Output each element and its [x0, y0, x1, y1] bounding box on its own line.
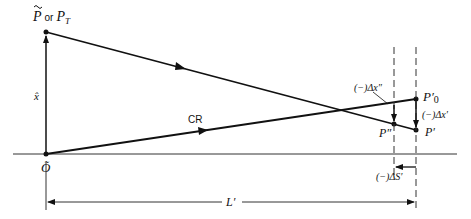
label-vertical-axis: x̂	[33, 90, 39, 102]
label-top-point: PorPT	[32, 9, 71, 26]
delta-x-double-prime-leader	[373, 92, 388, 104]
label-delta-s-prime: (−)ΔS′	[376, 171, 403, 183]
label-chief-ray: CR	[188, 114, 202, 125]
label-origin: Õ	[41, 160, 51, 175]
point-p	[44, 30, 49, 35]
label-delta-x-double-prime: (−)Δx″	[354, 82, 383, 94]
marginal-ray	[46, 32, 416, 130]
label-p-double-prime: P″	[378, 126, 392, 140]
label-p-prime: P′	[424, 125, 435, 139]
optics-diagram: PorPT x̂ Õ CR (−)Δx″ (−)Δx′ P′0 P″ P′ (−…	[0, 0, 471, 219]
point-origin	[44, 152, 49, 157]
chief-ray	[46, 99, 416, 154]
label-l-prime: L′	[225, 195, 236, 209]
label-p-zero-prime: P′0	[422, 89, 439, 105]
label-delta-x-prime: (−)Δx′	[422, 109, 449, 121]
marginal-ray-arrow-icon	[175, 62, 186, 70]
